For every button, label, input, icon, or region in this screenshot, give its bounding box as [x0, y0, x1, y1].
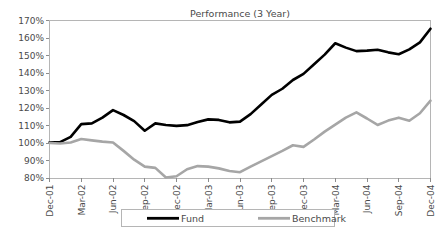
chart-legend: FundBenchmark: [122, 210, 347, 227]
x-axis-tick-label: Sep-04: [394, 184, 404, 216]
x-axis-tick-label: Dec-01: [45, 185, 55, 217]
y-axis-tick-label: 100%: [18, 138, 44, 148]
y-axis-tick-label: 90%: [24, 156, 44, 166]
chart-background: [0, 0, 447, 233]
y-axis-tick-label: 110%: [18, 121, 44, 131]
x-axis-tick-label: Jun-02: [108, 185, 118, 215]
legend-label-fund: Fund: [181, 213, 204, 224]
chart-canvas: Performance (3 Year) 80%90%100%110%120%1…: [0, 0, 447, 233]
legend-label-benchmark: Benchmark: [292, 213, 347, 224]
x-axis-tick-label: Jun-04: [362, 184, 372, 214]
y-axis-tick-label: 140%: [18, 68, 44, 78]
y-axis-tick-label: 170%: [18, 16, 44, 26]
performance-chart: Performance (3 Year) 80%90%100%110%120%1…: [0, 0, 447, 233]
x-axis-tick-label: Dec-04: [426, 184, 436, 216]
y-axis-tick-label: 150%: [18, 51, 44, 61]
x-axis-tick-label: Mar-02: [77, 185, 87, 216]
y-axis-tick-label: 130%: [18, 86, 44, 96]
y-axis-tick-label: 80%: [24, 173, 44, 183]
y-axis-tick-label: 160%: [18, 33, 44, 43]
y-axis-tick-label: 120%: [18, 103, 44, 113]
chart-title: Performance (3 Year): [190, 8, 290, 19]
